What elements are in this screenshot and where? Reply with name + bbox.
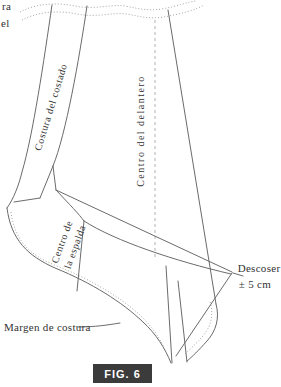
seam-allowance-label: Margen de costura [4, 321, 91, 333]
side-seam-notch-left-leg [40, 166, 53, 198]
solid-lines-group [7, 5, 243, 363]
unpick-label-line1: Descoser [238, 262, 281, 274]
center-back-lower-line [84, 221, 231, 274]
sewing-pattern-figure: ra el Costura del costado Centro del del… [0, 0, 281, 387]
side-seam-notch-right-leg [53, 166, 56, 190]
dart-fold-return-line [176, 273, 232, 356]
hem-notch-right-line [178, 281, 187, 362]
hem-edge-curve [7, 208, 171, 363]
torn-edge-top-outer-dotted [20, 1, 196, 12]
unpick-label-line2: ± 5 cm [239, 278, 271, 290]
figure-caption-badge: FIG. 6 [93, 364, 152, 383]
figure-caption-text: FIG. 6 [104, 368, 141, 380]
center-front-label: Centro del delantero [135, 75, 146, 187]
torn-edge-top-inner-dotted [22, 5, 204, 20]
side-seam-label: Costura del costado [32, 62, 69, 152]
dotted-lines-group [11, 1, 212, 355]
side-seam-step-line [14, 198, 40, 202]
pattern-diagram-canvas: ra el Costura del costado Centro del del… [0, 0, 281, 387]
hem-notch-left-line [166, 266, 172, 363]
cropped-label-fragment-2: el [1, 17, 10, 29]
center-back-fold-line [56, 190, 84, 221]
cropped-label-fragment-1: ra [2, 0, 11, 12]
right-front-edge-line [168, 10, 216, 304]
labels-group: ra el Costura del costado Centro del del… [1, 0, 280, 333]
